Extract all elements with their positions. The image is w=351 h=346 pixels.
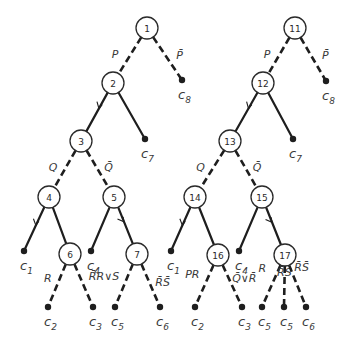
edge-label: P̄ [176,49,183,62]
tree-node: 14 [184,186,206,208]
edge-label: R∨S [97,270,120,283]
leaf-label-base: c [280,314,287,329]
leaf-label-subscript: 4 [94,266,100,276]
leaf-label-subscript: 4 [242,266,248,276]
edge-12-L7 [268,93,293,139]
leaf-label: c8 [178,87,191,105]
node-label: 5 [111,193,117,203]
tree-node: 13 [219,130,241,152]
leaf-label: c3 [238,314,251,332]
leaf-label-base: c [289,146,296,161]
leaf-dot [281,304,287,310]
leaf-label-base: c [167,258,174,273]
leaf-dot [179,77,185,83]
node-label: 16 [212,251,224,261]
leaf-label: c7 [141,146,154,164]
edge-label: Q [49,161,58,174]
node-label: 12 [257,79,268,89]
tree-node: 6 [59,243,81,265]
edge-12-13 [235,93,257,132]
leaf-label: c6 [156,314,169,332]
edge-3-4 [54,151,75,188]
leaf-dot [45,304,51,310]
leaf-label-subscript: 8 [329,96,335,106]
leaf-dot [236,248,242,254]
arrow-icon [266,217,272,222]
tree-node: 12 [252,72,274,94]
edge-15-17 [266,207,281,245]
node-label: 1 [144,24,150,34]
edge-label: R̄S̄ [155,276,170,289]
leaf-dot [112,304,118,310]
edge-label: P̄ [322,49,329,62]
decision-tree-diagram: PP̄QQ̄RR̄R∨SR̄S̄c8c7c1c4c2c3c5c61234567P… [0,0,351,346]
leaf-label: c5 [280,314,293,332]
edge-14-16 [199,207,214,245]
leaf-label-subscript: 5 [287,322,293,332]
leaf-label-base: c [235,258,242,273]
edge-label: PR [185,268,199,281]
leaf-label-subscript: 7 [148,154,154,164]
left-tree: PP̄QQ̄RR̄R∨SR̄S̄c8c7c1c4c2c3c5c61234567 [20,17,191,332]
edge-4-L1 [24,207,44,251]
leaf-label: c5 [111,314,124,332]
node-label: 13 [224,137,235,147]
edge-label: Q̄ [104,161,113,174]
edge-2-L7 [118,93,145,139]
leaf-dot [142,136,148,142]
node-label: 4 [46,193,52,203]
node-label: 11 [289,24,300,34]
leaf-dot [88,248,94,254]
leaf-label: c2 [191,314,204,332]
leaf-label-base: c [111,314,118,329]
leaf-dot [21,248,27,254]
tree-node: 17 [274,244,296,266]
edge-4-6 [53,207,66,243]
node-label: 2 [110,79,116,89]
edge-2-3 [86,93,107,132]
leaf-dot [168,248,174,254]
leaf-label-subscript: 3 [245,322,251,332]
leaf-label: c3 [89,314,102,332]
leaf-dot [157,304,163,310]
leaf-label-subscript: 3 [96,322,102,332]
edge-label: P [112,48,119,61]
leaf-label: c5 [258,314,271,332]
leaf-label-base: c [141,146,148,161]
leaf-label-base: c [44,314,51,329]
leaf-label-base: c [322,88,329,103]
arrow-icon [117,217,124,222]
tree-node: 4 [38,186,60,208]
edge-label: R̄S̄ [294,261,309,274]
leaf-dot [323,78,329,84]
leaf-label-subscript: 5 [118,322,124,332]
node-label: 17 [279,251,290,261]
right-tree: PP̄QQ̄PRQ̄∨R̄RR̄SR̄S̄c8c7c1c4c2c3c5c5c61… [167,17,335,332]
leaf-dot [303,304,309,310]
edge-label: R [44,272,52,285]
tree-node: 7 [126,243,148,265]
leaf-label: c1 [167,258,180,276]
leaf-dot [239,304,245,310]
leaf-label-subscript: 5 [265,322,271,332]
node-label: 7 [134,250,140,260]
tree-node: 5 [103,186,125,208]
leaf-label-base: c [178,87,185,102]
edge-label: Q [196,161,205,174]
leaf-dot [290,136,296,142]
leaf-label-subscript: 8 [185,95,191,105]
edge-5-7 [118,207,133,244]
leaf-dot [259,304,265,310]
tree-node: 16 [207,244,229,266]
leaf-label-base: c [191,314,198,329]
leaf-label-subscript: 7 [296,154,302,164]
leaf-label-base: c [20,258,27,273]
leaf-label-base: c [258,314,265,329]
node-label: 6 [67,250,73,260]
leaf-label-base: c [302,314,309,329]
edge-label: R [258,262,266,275]
edge-1-2 [119,37,141,73]
tree-node: 1 [136,17,158,39]
edge-14-L1 [171,207,191,251]
edge-6-L2 [48,264,66,307]
